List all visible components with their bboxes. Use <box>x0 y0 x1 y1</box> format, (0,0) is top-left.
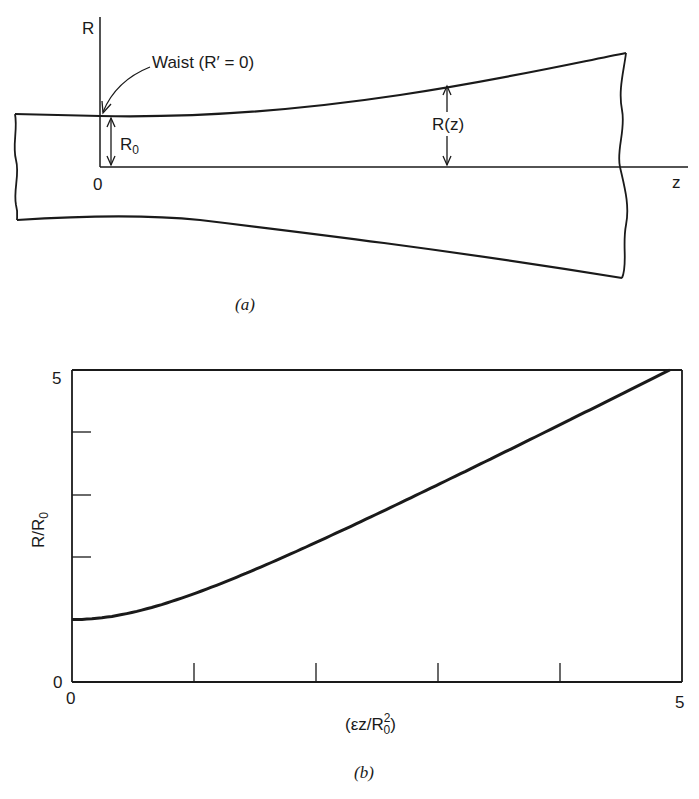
figure-canvas: R z 0 R0 R(z) Waist (R′ = 0) (a) <box>0 0 699 799</box>
figure-a-caption: (a) <box>235 295 255 314</box>
waist-pointer-arrowhead <box>102 101 111 113</box>
beam-top-edge <box>15 53 626 116</box>
waist-annotation: Waist (R′ = 0) <box>152 53 254 72</box>
beam-left-break <box>15 114 18 220</box>
figure-b-caption: (b) <box>354 763 374 782</box>
beam-bottom-edge <box>17 217 622 278</box>
origin-label: 0 <box>93 175 102 194</box>
x-axis-label: (εz/R20) <box>345 711 396 737</box>
x-ticks <box>194 663 560 682</box>
figure-b-plot: 5 0 0 5 R/R0 (εz/R20) (b) <box>29 369 684 782</box>
y-tick-label-5: 5 <box>52 369 61 388</box>
r-axis-label: R <box>82 19 94 38</box>
x-tick-label-5: 5 <box>675 693 684 712</box>
figure-a-beam-diagram: R z 0 R0 R(z) Waist (R′ = 0) (a) <box>15 17 688 314</box>
y-tick-label-0: 0 <box>53 673 62 692</box>
y-axis-label: R/R0 <box>29 512 51 548</box>
y-ticks <box>72 432 91 619</box>
rz-label: R(z) <box>432 115 464 134</box>
x-tick-label-0: 0 <box>66 689 75 708</box>
r0-label: R0 <box>120 135 139 157</box>
beam-right-break <box>619 53 627 278</box>
z-axis-label: z <box>672 173 681 192</box>
r-over-r0-curve <box>72 370 670 620</box>
